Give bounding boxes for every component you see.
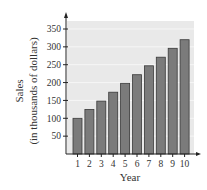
bar-year-6 (133, 75, 142, 154)
x-axis-ticks: 12345678910 (75, 154, 189, 169)
bar-year-8 (156, 57, 165, 154)
y-tick-label: 200 (47, 78, 62, 88)
y-tick-label: 350 (47, 24, 62, 34)
y-tick-label: 100 (47, 114, 62, 124)
x-tick-label: 5 (123, 159, 128, 169)
bar-year-5 (121, 83, 130, 154)
bar-year-1 (73, 118, 82, 154)
bar-year-4 (109, 92, 118, 154)
y-tick-label: 300 (47, 42, 62, 52)
bar-year-2 (85, 109, 94, 154)
x-tick-label: 6 (135, 159, 140, 169)
x-axis-title: Year (120, 171, 141, 183)
y-axis-title: Sales (13, 79, 25, 102)
bar-year-7 (144, 66, 153, 154)
x-tick-label: 3 (99, 159, 104, 169)
y-axis-subtitle: (in thousands of dollars) (27, 37, 40, 145)
x-tick-label: 2 (87, 159, 92, 169)
y-axis-arrow-icon (64, 12, 68, 18)
y-axis-ticks: 50100150200250300350 (47, 24, 68, 141)
x-tick-label: 8 (158, 159, 163, 169)
y-tick-label: 50 (52, 131, 62, 141)
bar-year-3 (97, 101, 106, 154)
y-tick-label: 150 (47, 96, 62, 106)
x-axis-arrow-icon (196, 152, 201, 156)
x-tick-label: 9 (170, 159, 175, 169)
x-tick-label: 1 (75, 159, 80, 169)
x-tick-label: 7 (147, 159, 152, 169)
bar-year-10 (180, 40, 189, 154)
x-tick-label: 4 (111, 159, 116, 169)
x-tick-label: 10 (180, 159, 190, 169)
bar-chart: 50100150200250300350 12345678910 Year Sa… (0, 0, 207, 190)
bar-year-9 (168, 48, 177, 154)
y-tick-label: 250 (47, 60, 62, 70)
